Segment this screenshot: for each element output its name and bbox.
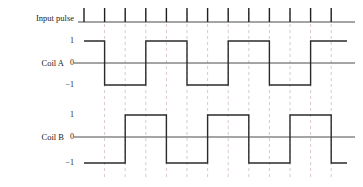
coil-b-waveform xyxy=(84,115,347,163)
gridlines-group xyxy=(105,12,332,180)
baselines-group xyxy=(74,22,355,137)
waveform-canvas xyxy=(0,0,363,187)
timing-diagram: Input pulse Coil A Coil B 1 0 −1 1 0 −1 xyxy=(0,0,363,187)
input-pulse-train xyxy=(84,8,331,22)
